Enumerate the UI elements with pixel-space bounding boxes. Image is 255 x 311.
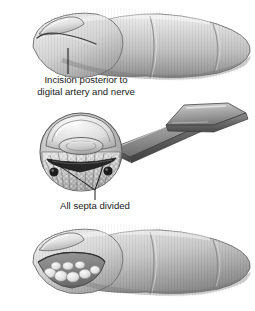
septa-label: All septa divided	[60, 200, 130, 211]
fat-lobule	[63, 262, 74, 270]
fat-lobule	[90, 266, 100, 274]
fat-lobule	[75, 261, 85, 269]
fat-lobule	[55, 271, 68, 282]
fat-lobule	[67, 272, 80, 282]
neurovascular-bundle-right	[104, 167, 112, 175]
surgical-illustration-felon-drainage: Incision posterior to digital artery and…	[0, 0, 255, 311]
fat-lobule	[79, 269, 91, 279]
neurovascular-bundle-left	[50, 168, 58, 176]
incision-label-line1: Incision posterior to	[44, 74, 127, 85]
incision-label-line2: digital artery and nerve	[37, 86, 135, 97]
fat-lobule	[51, 262, 61, 270]
illustration-canvas: Incision posterior to digital artery and…	[0, 0, 255, 311]
